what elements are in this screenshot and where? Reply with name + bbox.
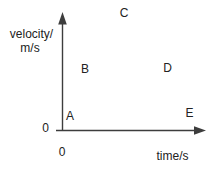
point-label-a: A — [66, 109, 74, 123]
graph-canvas: velocity/ m/s time/s 0 0 A B C D E — [0, 0, 216, 172]
axes — [56, 12, 206, 135]
point-label-b: B — [81, 62, 89, 76]
velocity-curve — [62, 24, 198, 131]
velocity-time-graph-figure: velocity/ m/s time/s 0 0 A B C D E — [0, 0, 216, 172]
point-label-e: E — [185, 106, 193, 120]
x-axis-arrow-icon — [194, 126, 206, 135]
y-axis-arrow-icon — [58, 12, 67, 25]
point-label-d: D — [163, 61, 172, 75]
y-axis-label-line1: velocity/ — [10, 27, 54, 41]
x-axis-label: time/s — [156, 149, 188, 163]
x-origin-zero-label: 0 — [59, 145, 66, 159]
y-origin-zero-label: 0 — [42, 121, 49, 135]
point-label-c: C — [120, 6, 129, 20]
y-axis-label-line2: m/s — [20, 41, 39, 55]
